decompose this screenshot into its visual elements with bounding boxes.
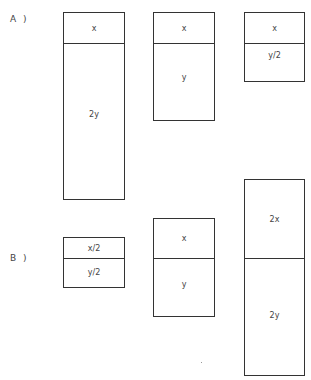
row-a-box-1: x 2y [63, 12, 125, 200]
row-a-box-3: x y/2 [244, 12, 305, 82]
top-cell: x [245, 13, 304, 44]
top-cell: x/2 [64, 238, 124, 259]
row-b-label: B ) [10, 253, 29, 263]
top-cell: 2x [245, 180, 304, 259]
bottom-cell: y/2 [245, 43, 304, 81]
top-cell: x [154, 219, 214, 259]
row-b-box-2: x y [153, 218, 215, 317]
bottom-cell: y [154, 258, 214, 316]
row-a-box-2: x y [153, 12, 215, 121]
bottom-cell: 2y [64, 43, 124, 199]
bottom-cell: y [154, 43, 214, 120]
top-cell: x [64, 13, 124, 44]
bottom-cell: y/2 [64, 258, 124, 287]
row-a-label: A ) [10, 14, 29, 24]
row-b-box-1: x/2 y/2 [63, 237, 125, 288]
bottom-cell: 2y [245, 258, 304, 375]
top-cell: x [154, 13, 214, 44]
row-b-box-3: 2x 2y [244, 179, 305, 376]
stray-dot [201, 362, 202, 363]
